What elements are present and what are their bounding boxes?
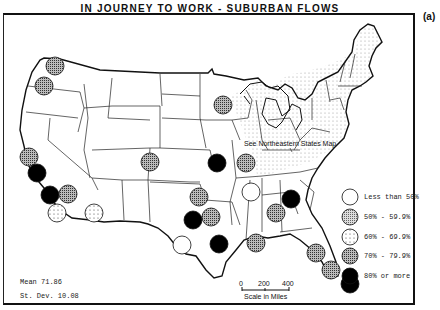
legend	[342, 189, 358, 284]
us-map: See Northeastern States Map	[0, 0, 440, 310]
city-symbol-lt50	[242, 183, 260, 201]
city-symbol-p70	[202, 208, 220, 226]
city-symbol-p80	[28, 164, 46, 182]
legend-symbol-p60	[342, 229, 358, 245]
legend-label-60: 60% - 69.9%	[364, 233, 410, 241]
scale-tick-200: 200	[258, 280, 270, 287]
city-symbol-p70	[322, 261, 340, 279]
city-symbol-p60	[85, 204, 103, 222]
city-symbol-p70	[237, 154, 255, 172]
city-symbol-p70	[59, 185, 77, 203]
city-symbol-lt50	[173, 236, 191, 254]
legend-symbol-p50	[342, 209, 358, 225]
northeast-annotation: See Northeastern States Map	[244, 140, 336, 148]
legend-label-lt50: Less than 50%	[364, 193, 419, 201]
city-symbol-p80	[41, 186, 59, 204]
city-symbol-p70	[46, 57, 64, 75]
legend-symbol-lt50	[342, 189, 358, 205]
city-symbol-p70	[141, 153, 159, 171]
legend-label-80: 80% or more	[364, 272, 410, 280]
city-symbol-p70	[307, 244, 325, 262]
northeast-region	[230, 24, 382, 178]
city-symbol-p80	[282, 190, 300, 208]
city-symbol-p70	[247, 234, 265, 252]
mean-value: Mean 71.86	[20, 278, 62, 286]
city-symbol-p70	[267, 204, 285, 222]
std-dev-value: St. Dev. 10.08	[20, 292, 79, 300]
legend-label-70: 70% - 79.9%	[364, 252, 410, 260]
legend-label-50: 50% - 59.9%	[364, 213, 410, 221]
city-symbol-p70	[20, 148, 38, 166]
city-symbol-p70	[214, 96, 232, 114]
city-symbol-p70	[190, 188, 208, 206]
city-symbol-p80	[210, 235, 228, 253]
scale-tick-0: 0	[239, 280, 243, 287]
legend-symbol-p80	[342, 268, 358, 284]
scale-tick-400: 400	[282, 280, 294, 287]
city-symbol-p80	[208, 154, 226, 172]
city-symbol-p70	[35, 77, 53, 95]
scale-bar	[242, 287, 289, 291]
city-symbol-p60	[48, 204, 66, 222]
scale-label: Scale in Miles	[244, 293, 287, 300]
legend-symbol-p70	[342, 248, 358, 264]
city-symbol-p80	[184, 211, 202, 229]
